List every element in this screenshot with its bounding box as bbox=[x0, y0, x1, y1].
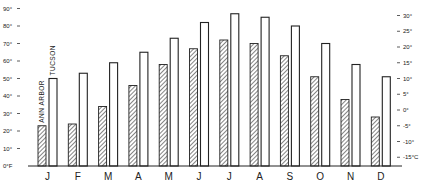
left-tick: 40° bbox=[3, 93, 20, 99]
ann-arbor-bar bbox=[371, 117, 379, 166]
left-tick-label: 90° bbox=[3, 6, 13, 12]
ann-arbor-bar bbox=[220, 40, 228, 166]
left-tick-label: 20° bbox=[3, 128, 13, 134]
ann-arbor-bar bbox=[159, 65, 167, 167]
month-label: J bbox=[197, 171, 202, 182]
month-label: N bbox=[347, 171, 354, 182]
tucson-bar bbox=[382, 77, 390, 166]
left-tick-label: 40° bbox=[3, 93, 13, 99]
left-tick-label: 0°F bbox=[3, 163, 13, 169]
tucson-bar bbox=[261, 17, 269, 166]
right-tick-label: 0° bbox=[403, 107, 409, 113]
left-tick: 20° bbox=[3, 128, 20, 134]
right-tick-label: 20° bbox=[403, 44, 413, 50]
left-tick-label: 10° bbox=[3, 146, 13, 152]
month-label: J bbox=[45, 171, 50, 182]
tucson-bar bbox=[201, 23, 209, 167]
tucson-bar bbox=[231, 14, 239, 166]
left-y-axis: 0°F10°20°30°40°50°60°70°80°90° bbox=[3, 6, 20, 170]
right-y-axis: -15°C-10°-5°0°5°10°15°20°25°30° bbox=[397, 13, 419, 161]
month-bar-group bbox=[280, 26, 299, 166]
month-label: O bbox=[316, 171, 324, 182]
right-tick-label: 15° bbox=[403, 60, 413, 66]
right-tick: 5° bbox=[397, 91, 409, 97]
tucson-bar bbox=[49, 79, 57, 167]
right-tick-label: 10° bbox=[403, 76, 413, 82]
month-label: A bbox=[256, 171, 263, 182]
right-tick: 0° bbox=[397, 107, 409, 113]
right-tick: 25° bbox=[397, 28, 413, 34]
month-bar-group bbox=[68, 73, 87, 166]
month-label: A bbox=[135, 171, 142, 182]
tucson-bar bbox=[110, 63, 118, 166]
tucson-bar bbox=[322, 44, 330, 167]
month-label: D bbox=[377, 171, 384, 182]
right-tick: -10° bbox=[397, 139, 415, 145]
month-label: M bbox=[165, 171, 173, 182]
ann-arbor-bar bbox=[250, 44, 258, 167]
left-tick: 90° bbox=[3, 6, 20, 12]
left-tick: 80° bbox=[3, 23, 20, 29]
left-tick-label: 70° bbox=[3, 41, 13, 47]
tucson-bar bbox=[352, 65, 360, 167]
ann-arbor-bar bbox=[99, 107, 107, 167]
month-label: J bbox=[227, 171, 232, 182]
series-label-tucson: TUCSON bbox=[49, 45, 56, 75]
left-tick: 60° bbox=[3, 58, 20, 64]
right-tick: -15°C bbox=[397, 154, 419, 160]
month-label: S bbox=[287, 171, 294, 182]
left-tick: 70° bbox=[3, 41, 20, 47]
left-tick: 50° bbox=[3, 76, 20, 82]
ann-arbor-bar bbox=[311, 77, 319, 166]
left-tick-label: 30° bbox=[3, 111, 13, 117]
series-label-ann-arbor: ANN ARBOR bbox=[38, 80, 45, 123]
month-bar-group bbox=[220, 14, 239, 166]
month-label: M bbox=[104, 171, 112, 182]
right-tick-label: 25° bbox=[403, 28, 413, 34]
month-bar-group bbox=[190, 23, 209, 167]
tucson-bar bbox=[79, 73, 87, 166]
right-tick-label: 5° bbox=[403, 91, 409, 97]
ann-arbor-bar bbox=[129, 86, 137, 167]
right-tick-label: -15°C bbox=[403, 154, 419, 160]
month-bar-group bbox=[159, 38, 178, 166]
ann-arbor-bar bbox=[190, 49, 198, 166]
tucson-bar bbox=[170, 38, 178, 166]
left-tick: 10° bbox=[3, 146, 20, 152]
right-tick: 10° bbox=[397, 76, 413, 82]
month-bar-group bbox=[250, 17, 269, 166]
right-tick-label: -5° bbox=[403, 123, 411, 129]
ann-arbor-bar bbox=[68, 124, 76, 166]
bars-group bbox=[38, 14, 390, 166]
ann-arbor-bar bbox=[280, 56, 288, 166]
right-tick: 15° bbox=[397, 60, 413, 66]
temperature-bar-chart: 0°F10°20°30°40°50°60°70°80°90° -15°C-10°… bbox=[0, 0, 425, 184]
month-bar-group bbox=[129, 52, 148, 166]
right-tick-label: -10° bbox=[403, 139, 415, 145]
tucson-bar bbox=[140, 52, 148, 166]
month-bar-group bbox=[371, 77, 390, 166]
left-tick: 0°F bbox=[3, 163, 13, 169]
month-bar-group bbox=[341, 65, 360, 167]
tucson-bar bbox=[291, 26, 299, 166]
right-tick: -5° bbox=[397, 123, 411, 129]
right-tick-label: 30° bbox=[403, 13, 413, 19]
ann-arbor-bar bbox=[38, 126, 46, 166]
month-bar-group bbox=[311, 44, 330, 167]
month-bar-group bbox=[99, 63, 118, 166]
left-tick-label: 50° bbox=[3, 76, 13, 82]
left-tick: 30° bbox=[3, 111, 20, 117]
right-tick: 30° bbox=[397, 13, 413, 19]
left-tick-label: 60° bbox=[3, 58, 13, 64]
ann-arbor-bar bbox=[341, 100, 349, 167]
month-label: F bbox=[75, 171, 81, 182]
right-tick: 20° bbox=[397, 44, 413, 50]
month-labels: JFMAMJJASOND bbox=[45, 171, 384, 182]
left-tick-label: 80° bbox=[3, 23, 13, 29]
